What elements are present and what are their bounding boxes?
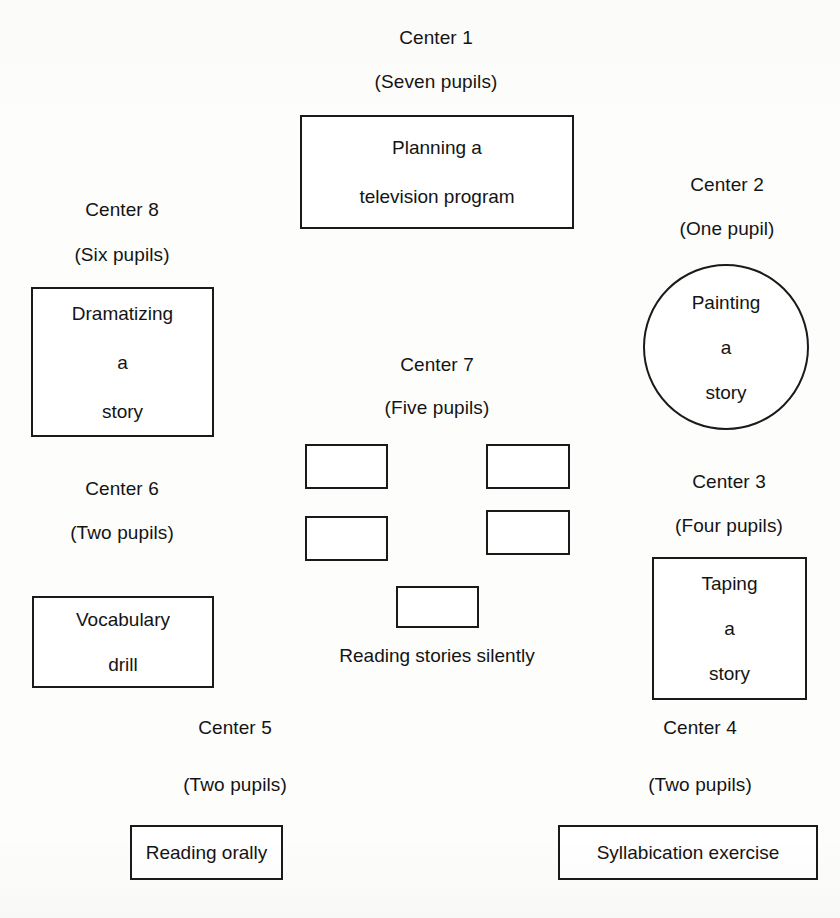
diagram-canvas: Center 1 (Seven pupils) Planning a telev… [0,0,840,918]
center-2-pupils: (One pupil) [627,219,827,238]
center-3-pupils: (Four pupils) [629,516,829,535]
center-7-desk-2 [486,444,570,489]
center-1-activity-line-2: television program [359,187,514,206]
center-4-activity-line-1: Syllabication exercise [597,843,780,862]
center-7-pupils: (Five pupils) [337,398,537,417]
center-8-activity-box: Dramatizing a story [31,287,214,437]
center-1-activity-box: Planning a television program [300,115,574,229]
center-3-activity-box: Taping a story [652,557,807,700]
center-1-pupils: (Seven pupils) [336,72,536,91]
center-8-activity-line-2: a [117,353,128,372]
center-4-label: Center 4 [600,718,800,737]
center-7-label: Center 7 [337,355,537,374]
center-7-desk-5 [396,586,479,628]
center-5-label: Center 5 [135,718,335,737]
center-2-activity-line-3: story [705,383,746,402]
center-8-label: Center 8 [22,200,222,219]
center-8-pupils: (Six pupils) [22,245,222,264]
center-4-pupils: (Two pupils) [600,775,800,794]
center-2-activity-circle: Painting a story [643,264,809,430]
center-3-activity-line-2: a [724,619,735,638]
center-5-activity-box: Reading orally [130,825,283,880]
center-8-activity-line-1: Dramatizing [72,304,173,323]
center-3-activity-line-1: Taping [702,574,758,593]
center-8-activity-line-3: story [102,402,143,421]
center-7-desk-4 [486,510,570,555]
center-6-label: Center 6 [22,479,222,498]
center-6-activity-line-1: Vocabulary [76,610,170,629]
center-6-activity-line-2: drill [108,655,138,674]
center-5-pupils: (Two pupils) [135,775,335,794]
center-3-label: Center 3 [629,472,829,491]
center-7-desk-1 [305,444,388,489]
center-6-pupils: (Two pupils) [22,523,222,542]
center-2-activity-line-1: Painting [692,293,761,312]
center-1-activity-line-1: Planning a [392,138,482,157]
center-2-activity-line-2: a [721,338,732,357]
center-6-activity-box: Vocabulary drill [32,596,214,688]
center-1-label: Center 1 [336,28,536,47]
center-3-activity-line-3: story [709,664,750,683]
center-4-activity-box: Syllabication exercise [558,825,818,880]
center-2-label: Center 2 [627,175,827,194]
center-7-caption: Reading stories silently [317,645,557,667]
center-7-desk-3 [305,516,388,561]
center-5-activity-line-1: Reading orally [146,843,267,862]
